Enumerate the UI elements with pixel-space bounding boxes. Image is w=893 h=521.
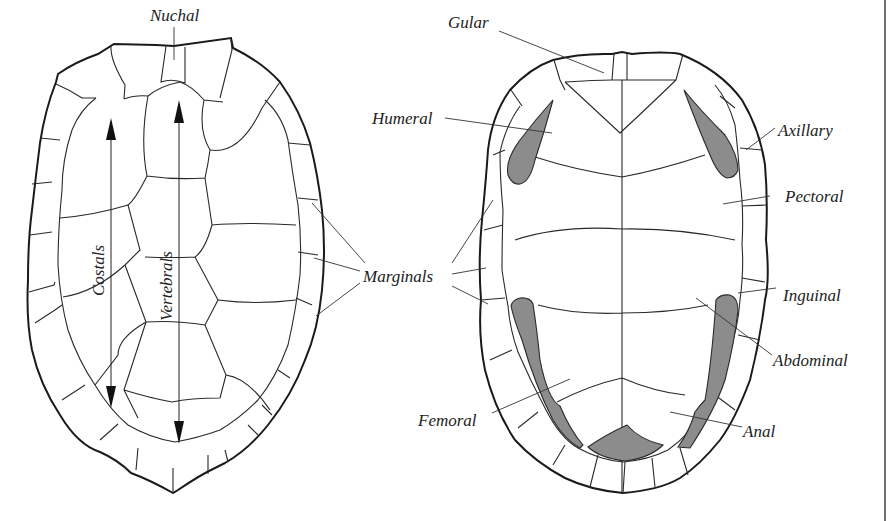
costals-label: Costals xyxy=(89,245,108,296)
axillary-label: Axillary xyxy=(777,121,833,140)
marginals-leaders xyxy=(312,200,493,316)
marginals-label: Marginals xyxy=(362,267,434,286)
anal-label: Anal xyxy=(742,422,775,441)
gular-label: Gular xyxy=(448,13,489,32)
humeral-label: Humeral xyxy=(371,109,433,128)
plastron xyxy=(445,31,776,494)
pectoral-label: Pectoral xyxy=(784,187,844,206)
vertebrals-label: Vertebrals xyxy=(157,251,176,321)
femoral-label: Femoral xyxy=(417,411,477,430)
abdominal-label: Abdominal xyxy=(772,351,848,370)
nuchal-label: Nuchal xyxy=(149,6,199,25)
inguinal-label: Inguinal xyxy=(782,286,841,305)
turtle-shell-diagram: Nuchal Costals Vertebrals xyxy=(0,0,893,521)
